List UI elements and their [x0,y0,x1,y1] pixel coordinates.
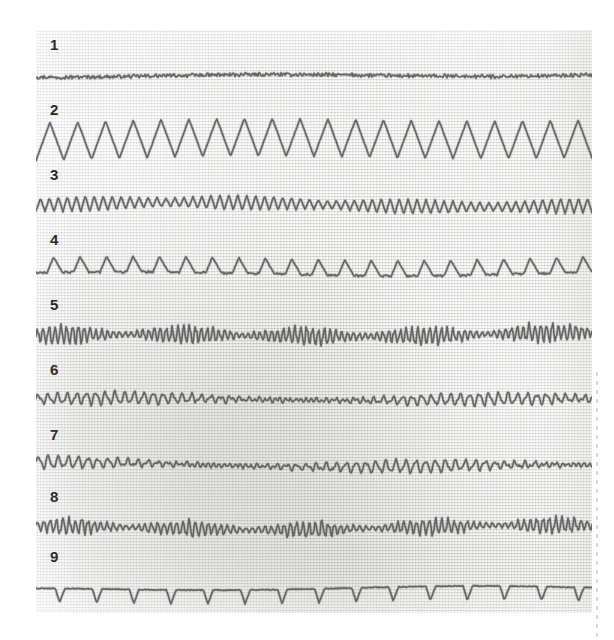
trace-row-5: 5 [36,296,592,361]
trace-row-9: 9 [36,548,592,613]
scan-edge-artifact [596,372,598,640]
figure-page: 123456789 [0,0,614,640]
trace-row-8: 8 [36,488,592,553]
trace-curve-6 [36,375,592,425]
trace-curve-2 [36,115,592,165]
trace-row-3: 3 [36,166,592,231]
trace-row-6: 6 [36,361,592,426]
trace-curve-3 [36,180,592,230]
trace-panel: 123456789 [36,30,592,613]
trace-curve-8 [36,502,592,552]
trace-curve-9 [36,562,592,612]
trace-row-1: 1 [36,36,592,101]
trace-curve-7 [36,440,592,490]
trace-row-4: 4 [36,231,592,296]
trace-curve-1 [36,50,592,100]
trace-curve-5 [36,310,592,360]
trace-curve-4 [36,245,592,295]
trace-row-2: 2 [36,101,592,166]
trace-row-7: 7 [36,426,592,491]
